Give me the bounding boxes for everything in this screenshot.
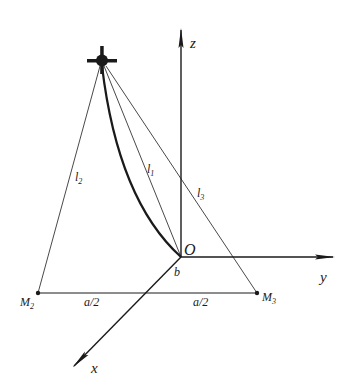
point-m3-dot — [255, 291, 259, 295]
segment-l3-label: l3 — [197, 186, 204, 202]
diagram-canvas: z y x O b l2 l1 l3 M2 M3 a/2 a/2 — [0, 0, 353, 391]
point-m2-dot — [36, 291, 40, 295]
origin-label: O — [184, 241, 196, 258]
z-axis-label: z — [189, 35, 196, 51]
segment-l2 — [38, 66, 100, 293]
point-m3-label: M3 — [261, 290, 276, 306]
segment-l1-label: l1 — [147, 162, 154, 178]
dimension-left-half: a/2 — [84, 295, 99, 309]
drone-node-icon — [87, 46, 117, 74]
y-axis-label: y — [318, 269, 327, 285]
point-m2-label: M2 — [19, 295, 34, 311]
segment-l2-label: l2 — [75, 170, 82, 186]
x-axis — [74, 257, 181, 366]
dimension-right-half: a/2 — [193, 295, 208, 309]
x-axis-label: x — [90, 360, 98, 376]
offset-label-b: b — [174, 265, 180, 279]
